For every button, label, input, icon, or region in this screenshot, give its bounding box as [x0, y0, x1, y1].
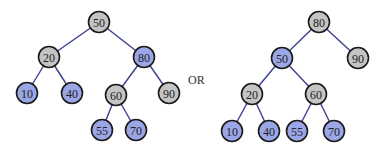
right-tree-node-80: 80	[309, 12, 330, 33]
node-label: 60	[110, 89, 122, 103]
node-label: 80	[138, 51, 150, 65]
node-label: 40	[263, 125, 275, 139]
node-label: 70	[130, 124, 142, 138]
node-label: 10	[226, 125, 238, 139]
or-separator-label: OR	[188, 73, 205, 88]
node-label: 20	[246, 88, 258, 102]
left-tree-node-20: 20	[39, 47, 60, 68]
right-tree-node-60: 60	[306, 84, 327, 105]
node-label: 20	[43, 51, 55, 65]
node-label: 50	[93, 16, 105, 30]
right-tree-node-90: 90	[348, 48, 369, 69]
node-label: 60	[310, 88, 322, 102]
node-label: 10	[21, 87, 33, 101]
node-label: 80	[313, 16, 325, 30]
node-label: 55	[291, 125, 303, 139]
node-label: 70	[328, 125, 340, 139]
left-tree-node-40: 40	[62, 83, 83, 104]
right-tree-node-55: 55	[287, 121, 308, 142]
left-tree-node-50: 50	[89, 12, 110, 33]
right-tree-node-50: 50	[272, 48, 293, 69]
left-tree-node-90: 90	[159, 83, 180, 104]
right-tree-node-40: 40	[259, 121, 280, 142]
left-tree-node-55: 55	[92, 120, 113, 141]
node-label: 50	[276, 52, 288, 66]
left-tree-node-10: 10	[17, 83, 38, 104]
node-label: 40	[66, 87, 78, 101]
right-tree-node-70: 70	[324, 121, 345, 142]
left-tree-node-80: 80	[134, 47, 155, 68]
right-tree-node-10: 10	[222, 121, 243, 142]
left-tree-node-70: 70	[126, 120, 147, 141]
node-label: 90	[163, 87, 175, 101]
node-label: 90	[352, 52, 364, 66]
right-tree-node-20: 20	[242, 84, 263, 105]
node-label: 55	[96, 124, 108, 138]
left-tree-node-60: 60	[106, 85, 127, 106]
